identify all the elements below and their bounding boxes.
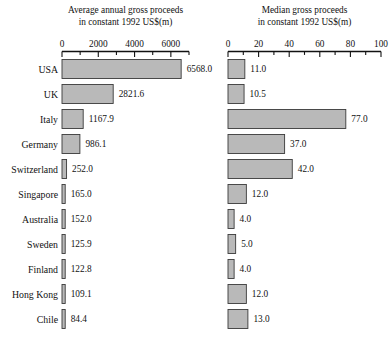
bar-value-label: 12.0 [252, 189, 269, 199]
bar [228, 310, 248, 329]
right-panel-title-line1: Median gross proceeds [262, 5, 348, 15]
category-label: UK [44, 89, 58, 100]
category-label: Australia [22, 214, 59, 225]
category-label: Finland [28, 264, 58, 275]
axis-tick-label: 2000 [89, 39, 108, 49]
left-panel-title-line2: in constant 1992 US$(m) [79, 17, 173, 28]
bar [228, 135, 285, 154]
category-label: Chile [37, 314, 59, 325]
bar-value-label: 122.8 [71, 264, 92, 274]
left-axis-tick-labels: 0200040006000 [60, 39, 181, 49]
bar [228, 60, 245, 79]
bar-value-label: 10.5 [250, 89, 267, 99]
bar [62, 235, 65, 254]
bar-value-label: 4.0 [240, 264, 252, 274]
bar-value-label: 152.0 [71, 214, 92, 224]
bar [62, 85, 113, 104]
category-label: Sweden [27, 239, 58, 250]
bar-value-label: 12.0 [252, 289, 269, 299]
axis-tick-label: 0 [226, 39, 231, 49]
bar-value-label: 13.0 [253, 314, 270, 324]
left-panel-title-line1: Average annual gross proceeds [68, 5, 184, 15]
bar [62, 110, 83, 129]
bar [62, 260, 65, 279]
axis-tick-label: 40 [285, 39, 295, 49]
bar [228, 210, 234, 229]
bar [228, 235, 236, 254]
category-label: Italy [40, 114, 58, 125]
right-axis-ticks [228, 52, 381, 58]
bar-value-label: 42.0 [298, 164, 315, 174]
bar-value-label: 986.1 [85, 139, 106, 149]
bar [228, 285, 246, 304]
bar-value-label: 252.0 [72, 164, 93, 174]
bar [62, 185, 65, 204]
bar [62, 60, 181, 79]
left-axis-ticks [62, 52, 189, 58]
right-panel-value-labels: 11.010.577.037.042.012.04.05.04.012.013.… [240, 64, 368, 324]
bar-value-label: 1167.9 [89, 114, 115, 124]
bar-value-label: 109.1 [71, 289, 92, 299]
right-panel-bars [228, 60, 346, 329]
two-panel-bar-chart: Average annual gross proceeds in constan… [0, 0, 391, 344]
bar-value-label: 77.0 [351, 114, 368, 124]
axis-tick-label: 6000 [162, 39, 181, 49]
category-label: Switzerland [11, 164, 58, 175]
bar [62, 160, 67, 179]
category-label: Singapore [18, 189, 58, 200]
left-panel: Average annual gross proceeds in constan… [60, 5, 213, 329]
right-panel: Median gross proceeds in constant 1992 U… [226, 5, 389, 329]
category-labels: USAUKItalyGermanySwitzerlandSingaporeAus… [11, 64, 58, 325]
axis-tick-label: 4000 [125, 39, 144, 49]
axis-tick-label: 100 [374, 39, 388, 49]
bar-value-label: 11.0 [250, 64, 266, 74]
category-label: USA [38, 64, 58, 75]
category-label: Germany [22, 139, 59, 150]
bar [62, 135, 80, 154]
bar-value-label: 84.4 [71, 314, 88, 324]
axis-tick-label: 20 [254, 39, 264, 49]
bar [62, 310, 65, 329]
axis-tick-label: 60 [315, 39, 325, 49]
bar [228, 185, 246, 204]
bar [228, 160, 292, 179]
bar-value-label: 5.0 [241, 239, 253, 249]
bar-value-label: 125.9 [71, 239, 92, 249]
axis-tick-label: 80 [346, 39, 356, 49]
bar-value-label: 165.0 [71, 189, 92, 199]
category-label: Hong Kong [12, 289, 58, 300]
bar-value-label: 4.0 [240, 214, 252, 224]
bar-value-label: 2821.6 [119, 89, 145, 99]
bar-value-label: 6568.0 [187, 64, 213, 74]
bar [228, 85, 244, 104]
bar-value-label: 37.0 [290, 139, 307, 149]
left-panel-axis: 0200040006000 [60, 39, 189, 57]
right-axis-tick-labels: 020406080100 [226, 39, 389, 49]
right-panel-title-line2: in constant 1992 US$(m) [258, 17, 352, 28]
right-panel-axis: 020406080100 [226, 39, 389, 57]
bar [62, 285, 65, 304]
bar [228, 110, 346, 129]
bar [228, 260, 234, 279]
bar [62, 210, 65, 229]
axis-tick-label: 0 [60, 39, 65, 49]
